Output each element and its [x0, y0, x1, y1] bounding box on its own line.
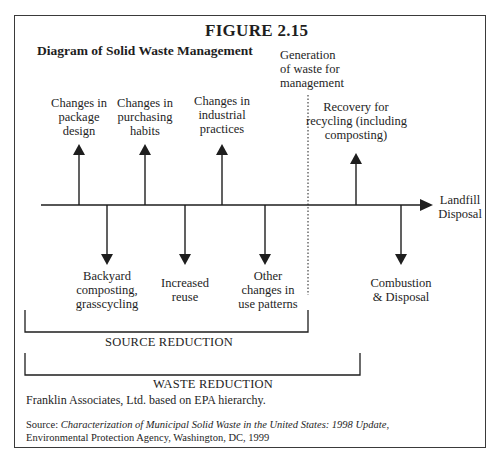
figure-title: Diagram of Solid Waste Management	[37, 43, 253, 59]
source-reduction-label: SOURCE REDUCTION	[105, 335, 233, 350]
landfill-disposal-label: Landfill Disposal	[435, 193, 485, 221]
arrow-down-icon	[101, 254, 113, 265]
downward-arrows	[101, 205, 407, 265]
main-axis	[41, 199, 433, 211]
arrow-up-icon	[73, 144, 85, 155]
arrow-right-icon	[420, 199, 433, 211]
waste-reduction-label: WASTE REDUCTION	[153, 377, 273, 392]
arrow-up-icon	[216, 144, 228, 155]
arrow-up-icon	[139, 144, 151, 155]
down-label-other-changes: Other changes in use patterns	[228, 269, 308, 311]
down-label-combustion-disposal: Combustion & Disposal	[366, 276, 436, 304]
source-reduction-bracket	[25, 310, 308, 332]
arrow-down-icon	[179, 254, 191, 265]
down-label-backyard-composting: Backyard composting, grasscycling	[67, 269, 147, 311]
up-label-recovery-recycling: Recovery for recycling (including compos…	[306, 100, 406, 142]
arrow-down-icon	[259, 254, 271, 265]
source-citation: Source: Characterization of Municipal So…	[26, 418, 389, 444]
up-label-purchasing-habits: Changes in purchasing habits	[105, 96, 185, 138]
source-title: Characterization of Municipal Solid Wast…	[61, 419, 387, 430]
waste-reduction-bracket	[25, 353, 360, 375]
figure-number: FIGURE 2.15	[205, 21, 308, 41]
arrow-down-icon	[395, 254, 407, 265]
credit-line: Franklin Associates, Ltd. based on EPA h…	[26, 393, 266, 408]
upward-arrows	[73, 144, 362, 205]
divider-label: Generation of waste for management	[280, 48, 344, 90]
arrow-up-icon	[350, 153, 362, 164]
up-label-industrial-practices: Changes in industrial practices	[182, 94, 262, 136]
down-label-increased-reuse: Increased reuse	[150, 276, 220, 304]
